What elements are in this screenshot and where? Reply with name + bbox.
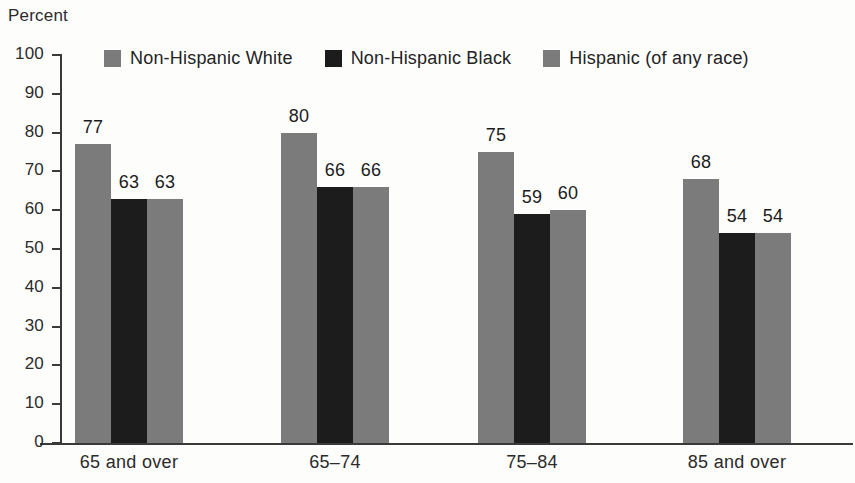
- x-axis-category-label: 65 and over: [45, 452, 213, 473]
- x-axis-category-label: 75–84: [448, 452, 616, 473]
- bar: 68: [683, 179, 719, 443]
- bar-value-label: 66: [325, 160, 346, 181]
- y-axis-tick-label: 20: [25, 354, 44, 374]
- bar-value-label: 63: [155, 172, 176, 193]
- x-axis-category-label: 85 and over: [653, 452, 821, 473]
- y-axis-tick-label: 0: [34, 432, 44, 452]
- bar: 75: [478, 152, 514, 443]
- y-axis-tick-label: 80: [25, 122, 44, 142]
- x-axis-line: [40, 443, 853, 445]
- bar: 77: [75, 144, 111, 443]
- bar-value-label: 66: [361, 160, 382, 181]
- bar-value-label: 80: [289, 106, 310, 127]
- bar: 66: [353, 187, 389, 443]
- bar-value-label: 77: [83, 117, 104, 138]
- bar-value-label: 63: [119, 172, 140, 193]
- y-axis-tick-label: 50: [25, 238, 44, 258]
- bar: 66: [317, 187, 353, 443]
- y-axis-title: Percent: [8, 6, 68, 26]
- bar: 63: [147, 199, 183, 443]
- bar: 59: [514, 214, 550, 443]
- bar: 54: [755, 233, 791, 443]
- bar-value-label: 75: [486, 125, 507, 146]
- bar-value-label: 59: [522, 187, 543, 208]
- y-axis-tick-label: 100: [15, 44, 44, 64]
- bar: 80: [281, 133, 317, 443]
- plot-area: 776363806666755960685454: [60, 55, 853, 443]
- x-axis-category-label: 65–74: [251, 452, 419, 473]
- bar: 63: [111, 199, 147, 443]
- bar-value-label: 68: [691, 152, 712, 173]
- bar: 60: [550, 210, 586, 443]
- y-axis-tick-label: 90: [25, 83, 44, 103]
- y-axis-tick-label: 30: [25, 316, 44, 336]
- y-axis-tick-label: 70: [25, 160, 44, 180]
- bar: 54: [719, 233, 755, 443]
- y-axis-tick-label: 60: [25, 199, 44, 219]
- bar-value-label: 54: [727, 206, 748, 227]
- y-axis-tick-label: 10: [25, 393, 44, 413]
- bar-value-label: 54: [763, 206, 784, 227]
- y-axis-tick-label: 40: [25, 277, 44, 297]
- bar-chart: Percent 1009080706050403020100 Non-Hispa…: [0, 0, 855, 483]
- bar-value-label: 60: [558, 183, 579, 204]
